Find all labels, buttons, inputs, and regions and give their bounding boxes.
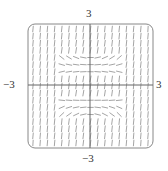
slope-segment: [141, 97, 142, 104]
slope-segment: [104, 40, 105, 47]
slope-segment: [119, 40, 120, 47]
x-max-label: 3: [156, 79, 162, 90]
slope-segment: [33, 54, 34, 60]
slope-segment: [83, 76, 84, 82]
slope-segment: [47, 76, 48, 83]
slope-segment: [109, 56, 115, 59]
slope-segment: [54, 133, 55, 140]
slope-segment: [47, 61, 48, 68]
slope-segment: [102, 64, 108, 65]
slope-segment: [141, 40, 142, 47]
slope-segment: [61, 26, 62, 32]
slope-segment: [97, 47, 98, 53]
slope-segment: [141, 133, 142, 140]
slope-segment: [102, 56, 108, 59]
slope-segment: [33, 97, 34, 104]
slope-segment: [40, 54, 41, 60]
slope-segment: [112, 90, 113, 96]
slope-segment: [141, 140, 142, 146]
slope-segment: [141, 33, 142, 40]
slope-segment: [69, 33, 70, 40]
slope-segment: [133, 76, 134, 83]
slope-segment: [66, 56, 72, 59]
slope-segment: [59, 100, 66, 101]
slope-segment: [33, 83, 34, 89]
slope-segment: [97, 26, 98, 32]
slope-segment: [61, 133, 62, 140]
slope-segment: [95, 57, 101, 58]
y-max-label: 3: [86, 8, 92, 19]
slope-segment: [97, 126, 98, 133]
slope-segment: [61, 90, 62, 96]
slope-segment: [40, 61, 41, 68]
slope-segment: [140, 61, 141, 68]
slope-segment: [76, 140, 77, 146]
slope-segment: [54, 69, 55, 76]
slope-segment: [54, 97, 55, 104]
slope-segment: [47, 126, 48, 133]
slope-segment: [33, 40, 34, 47]
slope-segment: [102, 113, 108, 116]
slope-segment: [105, 26, 106, 32]
slope-segment: [95, 107, 101, 108]
slope-segment: [133, 83, 134, 89]
slope-segment: [80, 57, 86, 58]
slope-segment: [133, 47, 134, 54]
slope-segment: [112, 118, 113, 124]
slope-segment: [104, 83, 105, 89]
slope-segment: [105, 33, 106, 40]
slope-segment: [33, 90, 34, 97]
slope-segment: [126, 111, 127, 117]
slope-segment: [116, 71, 122, 73]
slope-segment: [109, 71, 115, 72]
slope-segment: [119, 140, 120, 146]
slope-segment: [116, 100, 123, 101]
slope-segment: [66, 100, 73, 101]
slope-segment: [148, 104, 149, 111]
slope-segment: [126, 61, 127, 67]
slope-segment: [69, 140, 70, 146]
slope-segment: [33, 126, 34, 133]
slope-segment: [141, 90, 142, 97]
slope-segment: [54, 26, 55, 32]
slope-segment: [47, 104, 48, 111]
slope-segment: [126, 126, 127, 133]
slope-segment: [47, 33, 48, 40]
slope-segment: [69, 40, 70, 47]
slope-segment: [33, 104, 34, 111]
slope-segment: [40, 69, 41, 76]
slope-segment: [61, 83, 62, 89]
slope-segment: [119, 76, 120, 83]
slope-segment: [54, 40, 55, 47]
slope-segment: [83, 118, 84, 124]
slope-segment: [97, 33, 98, 39]
slope-segment: [133, 118, 134, 125]
slope-segment: [54, 33, 55, 40]
slope-segment: [40, 90, 41, 97]
slope-segment: [119, 47, 120, 54]
slope-segment: [47, 140, 48, 146]
slope-segment: [33, 111, 34, 117]
slope-segment: [141, 118, 142, 125]
slope-segment: [148, 33, 149, 40]
slope-segment: [112, 83, 113, 89]
slope-segment: [83, 90, 84, 96]
slope-segment: [119, 126, 120, 133]
slope-segment: [133, 104, 134, 111]
slope-segment: [33, 69, 34, 76]
slope-segment: [112, 126, 113, 133]
slope-segment: [126, 54, 127, 60]
slope-segment: [61, 40, 62, 47]
slope-segment: [33, 118, 34, 125]
slope-segment: [47, 83, 48, 89]
slope-segment: [54, 61, 55, 67]
slope-segment: [33, 33, 34, 40]
slope-segment: [133, 69, 134, 76]
slope-segment: [133, 61, 134, 68]
slope-segment: [112, 133, 113, 140]
slope-segment: [59, 112, 64, 116]
slope-segment: [141, 126, 142, 133]
slope-segment: [54, 118, 55, 125]
slope-segment: [141, 76, 142, 83]
slope-segment: [47, 118, 48, 125]
